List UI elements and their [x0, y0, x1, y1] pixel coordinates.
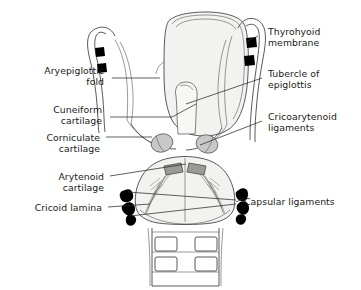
label-cuneiform-cartilage: Cuneiform cartilage [53, 104, 102, 126]
label-cricoid-lamina: Cricoid lamina [35, 202, 102, 213]
cricoid-lamina-body [135, 157, 235, 225]
label-arytenoid-cartilage-line2: cartilage [63, 182, 104, 193]
label-tubercle-of-epiglottis-line2: epiglottis [268, 79, 312, 90]
larynx-diagram: Aryepiglottic fold Cuneiform cartilage C… [0, 0, 361, 290]
label-thyrohyoid-membrane: Thyrohyoid membrane [267, 26, 320, 48]
label-thyrohyoid-membrane-line2: membrane [268, 37, 319, 48]
label-aryepiglottic-fold-line1: Aryepiglottic [44, 65, 104, 76]
epiglottis [175, 82, 197, 134]
label-cuneiform-cartilage-line2: cartilage [61, 115, 102, 126]
label-corniculate-cartilage: Corniculate cartilage [46, 132, 100, 154]
anatomy-drawing [88, 12, 266, 286]
label-thyrohyoid-membrane-line1: Thyrohyoid [267, 26, 320, 37]
label-cuneiform-cartilage-line1: Cuneiform [53, 104, 102, 115]
ligament-marker-left [120, 189, 136, 226]
label-cricoarytenoid-ligaments: Cricoarytenoid ligaments [268, 111, 337, 133]
label-cricoarytenoid-ligaments-line1: Cricoarytenoid [268, 111, 337, 122]
label-group-left: Aryepiglottic fold Cuneiform cartilage C… [35, 65, 105, 213]
label-arytenoid-cartilage: Arytenoid cartilage [58, 171, 104, 193]
label-arytenoid-cartilage-line1: Arytenoid [58, 171, 104, 182]
label-capsular-ligaments: Capsular ligaments [244, 196, 335, 207]
label-tubercle-of-epiglottis-line1: Tubercle of [267, 68, 320, 79]
label-capsular-ligaments-line1: Capsular ligaments [244, 196, 335, 207]
label-corniculate-cartilage-line1: Corniculate [46, 132, 100, 143]
label-cricoid-lamina-line1: Cricoid lamina [35, 202, 102, 213]
label-tubercle-of-epiglottis: Tubercle of epiglottis [267, 68, 320, 90]
label-aryepiglottic-fold-line2: fold [86, 76, 104, 87]
thyroid-cartilage-lamina [156, 12, 248, 136]
label-corniculate-cartilage-line2: cartilage [59, 143, 100, 154]
corniculate-cartilage-left [149, 131, 175, 155]
trachea [148, 228, 223, 286]
label-cricoarytenoid-ligaments-line2: ligaments [268, 122, 314, 133]
label-aryepiglottic-fold: Aryepiglottic fold [44, 65, 104, 87]
